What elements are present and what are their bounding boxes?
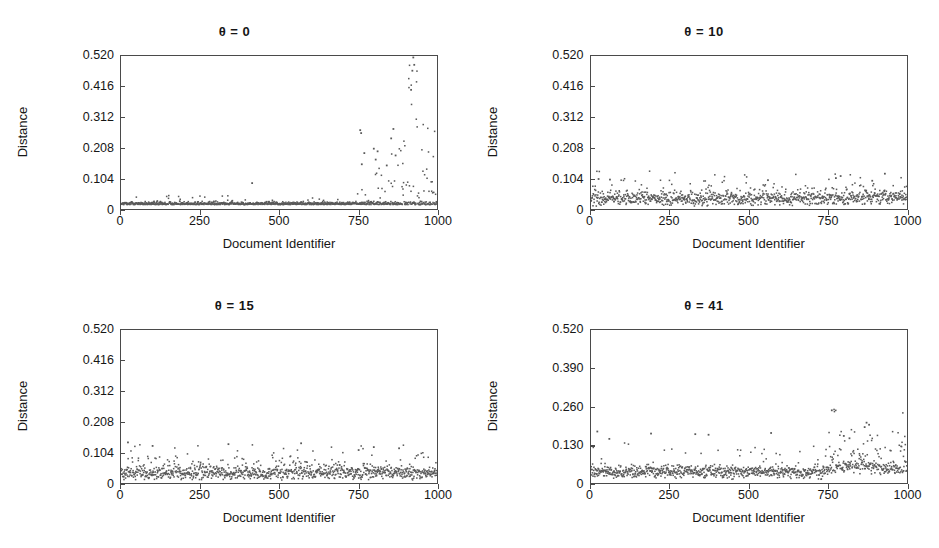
y-tick-mark: [120, 422, 125, 423]
y-tick-label: 0.390: [528, 361, 584, 375]
y-tick-label: 0.416: [58, 79, 114, 93]
x-tick-label: 750: [348, 488, 369, 502]
x-axis-ticks: 02505007501000: [590, 488, 908, 508]
x-tick-label: 250: [659, 214, 680, 228]
x-tick-mark: [828, 210, 829, 215]
scatter-points: [121, 330, 437, 483]
y-axis-label: Distance: [484, 107, 499, 158]
panel-theta-10: θ = 10 Distance 00.1040.2080.3120.4160.5…: [470, 0, 939, 274]
y-tick-label: 0: [528, 203, 584, 217]
plot-area: [120, 55, 438, 210]
x-tick-label: 750: [348, 214, 369, 228]
y-tick-mark: [120, 148, 125, 149]
x-axis-ticks: 02505007501000: [120, 214, 438, 234]
y-tick-label: 0.520: [58, 322, 114, 336]
scatter-points: [121, 56, 437, 209]
x-tick-label: 750: [818, 488, 839, 502]
x-tick-label: 500: [269, 214, 290, 228]
x-tick-mark: [120, 210, 121, 215]
y-tick-label: 0.104: [528, 172, 584, 186]
y-axis-label: Distance: [15, 381, 30, 432]
panel-theta-0: θ = 0 Distance 00.1040.2080.3120.4160.52…: [0, 0, 469, 274]
x-axis-label: Document Identifier: [120, 236, 438, 251]
x-tick-mark: [279, 484, 280, 489]
plot-area: [590, 329, 908, 484]
x-tick-mark: [279, 210, 280, 215]
x-axis-label: Document Identifier: [120, 510, 438, 525]
x-tick-label: 1000: [424, 488, 452, 502]
y-tick-label: 0.312: [58, 110, 114, 124]
y-tick-mark: [590, 329, 595, 330]
x-tick-label: 500: [738, 488, 759, 502]
x-tick-mark: [359, 210, 360, 215]
x-tick-mark: [200, 484, 201, 489]
y-tick-mark: [590, 55, 595, 56]
x-tick-mark: [908, 210, 909, 215]
y-tick-mark: [590, 86, 595, 87]
x-tick-label: 1000: [894, 214, 922, 228]
x-tick-label: 250: [189, 488, 210, 502]
scatter-points: [591, 56, 907, 209]
y-tick-mark: [590, 117, 595, 118]
x-tick-mark: [590, 484, 591, 489]
plot-area: [120, 329, 438, 484]
y-tick-mark: [120, 453, 125, 454]
panel-title: θ = 10: [470, 24, 939, 39]
x-tick-label: 500: [269, 488, 290, 502]
y-tick-label: 0.312: [528, 110, 584, 124]
x-axis-label: Document Identifier: [590, 236, 908, 251]
x-tick-mark: [438, 484, 439, 489]
y-tick-mark: [590, 179, 595, 180]
panel-title: θ = 0: [0, 24, 469, 39]
y-axis-ticks: 00.1040.2080.3120.4160.520: [522, 55, 584, 210]
x-tick-label: 0: [586, 488, 593, 502]
panel-title: θ = 41: [470, 298, 939, 313]
y-tick-label: 0.520: [528, 48, 584, 62]
x-tick-mark: [749, 210, 750, 215]
y-axis-label: Distance: [484, 381, 499, 432]
y-tick-label: 0.104: [58, 446, 114, 460]
plot-area: [590, 55, 908, 210]
x-tick-label: 250: [659, 488, 680, 502]
x-tick-mark: [669, 210, 670, 215]
y-tick-label: 0.260: [528, 400, 584, 414]
x-tick-label: 500: [738, 214, 759, 228]
x-tick-mark: [438, 210, 439, 215]
y-tick-label: 0.130: [528, 438, 584, 452]
panel-title: θ = 15: [0, 298, 469, 313]
x-tick-mark: [908, 484, 909, 489]
y-tick-label: 0.208: [58, 415, 114, 429]
x-tick-label: 750: [818, 214, 839, 228]
x-tick-label: 1000: [894, 488, 922, 502]
x-tick-mark: [359, 484, 360, 489]
x-tick-mark: [749, 484, 750, 489]
x-tick-label: 1000: [424, 214, 452, 228]
panel-theta-41: θ = 41 Distance 00.1300.2600.3900.520 02…: [470, 274, 939, 548]
y-tick-mark: [120, 360, 125, 361]
x-axis-ticks: 02505007501000: [120, 488, 438, 508]
y-axis-label: Distance: [15, 107, 30, 158]
x-tick-label: 0: [117, 488, 124, 502]
x-tick-mark: [828, 484, 829, 489]
y-tick-mark: [590, 445, 595, 446]
y-tick-label: 0: [528, 477, 584, 491]
y-axis-ticks: 00.1040.2080.3120.4160.520: [52, 329, 114, 484]
panel-theta-15: θ = 15 Distance 00.1040.2080.3120.4160.5…: [0, 274, 469, 548]
x-tick-mark: [590, 210, 591, 215]
y-tick-mark: [590, 148, 595, 149]
y-tick-mark: [120, 179, 125, 180]
y-tick-label: 0.312: [58, 384, 114, 398]
y-axis-ticks: 00.1300.2600.3900.520: [522, 329, 584, 484]
y-tick-mark: [590, 407, 595, 408]
y-tick-label: 0.208: [58, 141, 114, 155]
x-tick-label: 0: [586, 214, 593, 228]
y-axis-ticks: 00.1040.2080.3120.4160.520: [52, 55, 114, 210]
y-tick-label: 0: [58, 203, 114, 217]
y-tick-mark: [120, 329, 125, 330]
y-tick-label: 0.416: [58, 353, 114, 367]
x-axis-ticks: 02505007501000: [590, 214, 908, 234]
y-tick-label: 0.104: [58, 172, 114, 186]
y-tick-label: 0.520: [528, 322, 584, 336]
x-axis-label: Document Identifier: [590, 510, 908, 525]
scatter-points: [591, 330, 907, 483]
